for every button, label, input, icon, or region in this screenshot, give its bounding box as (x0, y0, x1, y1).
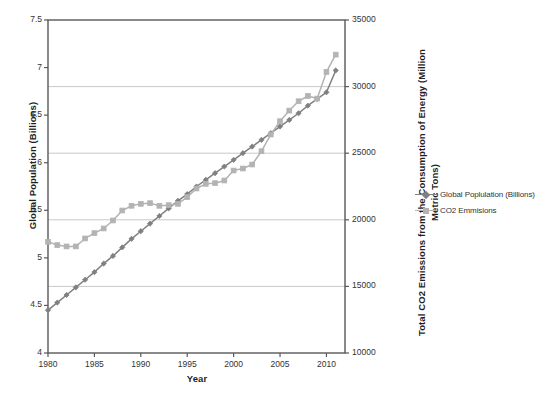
y2-axis-tick-label: 10000 (352, 347, 392, 357)
data-point-marker (231, 168, 236, 173)
data-point-marker (111, 218, 116, 223)
y-axis-tick-label: 4 (8, 347, 42, 357)
data-point-marker (259, 149, 264, 154)
y2-axis-tick-label: 35000 (352, 14, 392, 24)
x-axis-tick-label: 2005 (260, 359, 300, 369)
x-axis-tick-label: 1980 (28, 359, 68, 369)
legend-item-1[interactable]: Global Poplulation (Billions) (415, 189, 536, 200)
y-axis-title: Global Population (Billions) (27, 71, 38, 261)
data-point-marker (278, 119, 283, 124)
data-point-marker (250, 162, 255, 167)
square-marker-icon (415, 206, 437, 215)
data-point-marker (166, 203, 171, 208)
legend-item-label: CO2 Emmisions (440, 206, 497, 215)
data-point-marker (92, 231, 97, 236)
data-point-marker (185, 195, 190, 200)
y-axis-tick-label: 7.5 (8, 14, 42, 24)
data-point-marker (333, 68, 338, 73)
x-axis-tick-label: 2000 (214, 359, 254, 369)
y2-axis-tick-label: 20000 (352, 214, 392, 224)
x-axis-title: Year (48, 373, 346, 384)
data-point-marker (333, 52, 338, 57)
y-axis-tick-label: 4.5 (8, 299, 42, 309)
data-point-marker (157, 203, 162, 208)
data-point-marker (315, 96, 320, 101)
x-axis-tick-label: 1995 (167, 359, 207, 369)
x-axis-tick-label: 2010 (306, 359, 346, 369)
data-point-marker (55, 243, 60, 248)
data-point-marker (324, 70, 329, 75)
data-point-marker (241, 166, 246, 171)
data-point-marker (213, 181, 218, 186)
data-point-marker (64, 244, 69, 249)
diamond-marker-icon (415, 190, 437, 199)
chart-container: 7.576.565.554.54 35000300002500020000150… (0, 0, 536, 399)
data-point-marker (138, 201, 143, 206)
data-point-marker (46, 239, 51, 244)
data-point-marker (222, 178, 227, 183)
x-axis-tick-label: 1990 (121, 359, 161, 369)
data-point-marker (296, 99, 301, 104)
y2-axis-tick-label: 25000 (352, 147, 392, 157)
chart-legend: Global Poplulation (Billions)CO2 Emmisio… (415, 189, 536, 221)
data-point-marker (73, 244, 78, 249)
legend-item-label: Global Poplulation (Billions) (440, 190, 535, 199)
data-point-marker (203, 181, 208, 186)
data-point-marker (83, 236, 88, 241)
data-point-marker (305, 94, 310, 99)
x-axis-tick-label: 1985 (74, 359, 114, 369)
data-point-marker (148, 201, 153, 206)
data-point-marker (194, 186, 199, 191)
data-point-marker (176, 201, 181, 206)
data-point-marker (101, 226, 106, 231)
data-point-marker (268, 132, 273, 137)
data-point-marker (287, 108, 292, 113)
data-point-marker (120, 208, 125, 213)
y2-axis-tick-label: 30000 (352, 81, 392, 91)
data-point-marker (129, 203, 134, 208)
y2-axis-tick-label: 15000 (352, 280, 392, 290)
legend-item-2[interactable]: CO2 Emmisions (415, 205, 536, 216)
series-layer (45, 52, 338, 313)
